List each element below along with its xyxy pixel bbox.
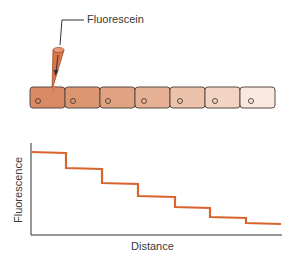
cell-1: [30, 87, 65, 108]
cell-row: [30, 86, 275, 108]
cell-6: [205, 87, 240, 108]
fluorescence-step-line: [31, 152, 281, 224]
cell-4: [135, 87, 170, 108]
x-axis-label: Distance: [131, 240, 174, 252]
diagram-canvas: [0, 0, 298, 262]
cell-3: [100, 87, 135, 108]
pipette-icon: [52, 48, 64, 91]
y-axis-label: Fluorescence: [12, 156, 24, 224]
fluorescein-label: Fluorescein: [87, 13, 144, 25]
cell-7: [240, 87, 275, 108]
label-leader-line: [60, 20, 84, 45]
cell-5: [170, 87, 205, 108]
cell-2: [65, 87, 100, 108]
